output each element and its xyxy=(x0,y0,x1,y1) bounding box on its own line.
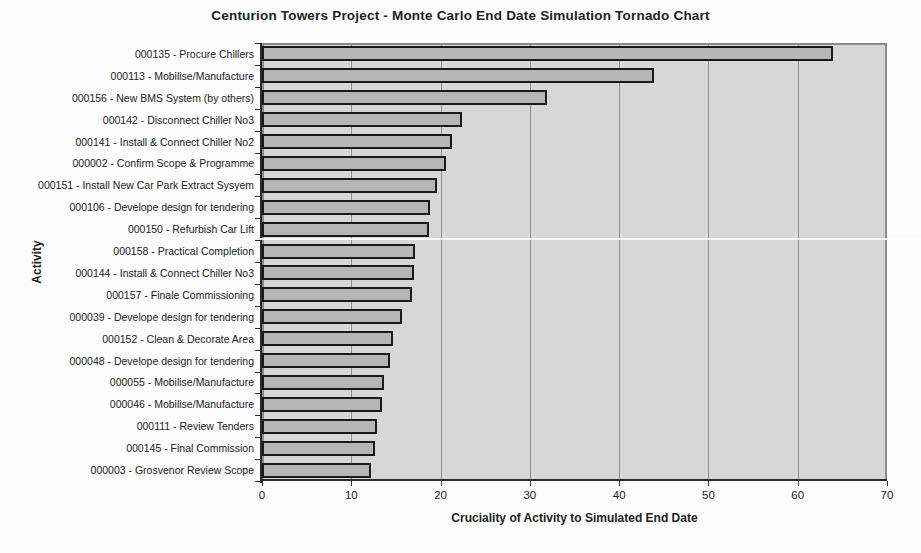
category-label: 000055 - Mobilise/Manufacture xyxy=(0,375,259,389)
x-axis-tick xyxy=(530,481,531,486)
x-axis-tick-label: 20 xyxy=(423,489,459,501)
bar-000156 xyxy=(262,90,547,105)
category-label: 000141 - Install & Connect Chiller No2 xyxy=(0,135,259,149)
bar-000157 xyxy=(262,287,412,302)
category-label: 000039 - Develope design for tendering xyxy=(0,310,259,324)
bar-000048 xyxy=(262,353,390,368)
bar-000106 xyxy=(262,200,430,215)
bar-000150 xyxy=(262,222,429,237)
x-axis-tick xyxy=(262,481,263,486)
x-axis-tick xyxy=(708,481,709,486)
bar-000144 xyxy=(262,265,414,280)
x-axis-tick-label: 40 xyxy=(601,489,637,501)
plot-area xyxy=(262,43,887,481)
x-axis-tick xyxy=(619,481,620,486)
y-axis-title: Activity xyxy=(24,43,50,481)
scan-artifact-line xyxy=(248,238,921,240)
tornado-chart-page: Centurion Towers Project - Monte Carlo E… xyxy=(0,0,921,553)
bar-000039 xyxy=(262,309,402,324)
x-axis-tick-label: 30 xyxy=(512,489,548,501)
chart-title: Centurion Towers Project - Monte Carlo E… xyxy=(0,8,921,23)
bar-000046 xyxy=(262,397,382,412)
category-label: 000048 - Develope design for tendering xyxy=(0,354,259,368)
category-label: 000145 - Final Commission xyxy=(0,441,259,455)
category-label: 000106 - Develope design for tendering xyxy=(0,200,259,214)
gridline-50 xyxy=(708,45,709,479)
category-label: 000150 - Refurbish Car Lift xyxy=(0,222,259,236)
category-label: 000135 - Procure Chillers xyxy=(0,47,259,61)
category-label: 000142 - Disconnect Chiller No3 xyxy=(0,113,259,127)
x-axis-tick-label: 10 xyxy=(333,489,369,501)
category-label: 000144 - Install & Connect Chiller No3 xyxy=(0,266,259,280)
x-axis-tick-label: 0 xyxy=(244,489,280,501)
category-label: 000158 - Practical Completion xyxy=(0,244,259,258)
x-axis-tick-label: 70 xyxy=(869,489,905,501)
x-axis-title: Cruciality of Activity to Simulated End … xyxy=(262,511,887,525)
bar-000113 xyxy=(262,68,654,83)
bar-000135 xyxy=(262,46,833,61)
bar-000141 xyxy=(262,134,452,149)
x-axis-line xyxy=(260,479,887,481)
bar-000003 xyxy=(262,463,371,478)
category-label: 000151 - Install New Car Park Extract Sy… xyxy=(0,178,259,192)
category-label: 000002 - Confirm Scope & Programme xyxy=(0,156,259,170)
x-axis-tick xyxy=(887,481,888,486)
gridline-20 xyxy=(441,45,442,479)
bar-000002 xyxy=(262,156,446,171)
category-label: 000113 - Mobilise/Manufacture xyxy=(0,69,259,83)
bar-000111 xyxy=(262,419,377,434)
bar-000055 xyxy=(262,375,384,390)
x-axis-tick-label: 50 xyxy=(690,489,726,501)
x-axis-tick xyxy=(798,481,799,486)
category-label: 000046 - Mobilise/Manufacture xyxy=(0,397,259,411)
x-axis-tick-label: 60 xyxy=(780,489,816,501)
gridline-40 xyxy=(619,45,620,479)
bar-000151 xyxy=(262,178,437,193)
category-label: 000111 - Review Tenders xyxy=(0,419,259,433)
bar-000158 xyxy=(262,244,415,259)
bar-000152 xyxy=(262,331,393,346)
gridline-10 xyxy=(351,45,352,479)
category-label: 000156 - New BMS System (by others) xyxy=(0,91,259,105)
category-label: 000152 - Clean & Decorate Area xyxy=(0,332,259,346)
bar-000142 xyxy=(262,112,462,127)
x-axis-tick xyxy=(441,481,442,486)
category-label: 000003 - Grosvenor Review Scope xyxy=(0,463,259,477)
x-axis-tick xyxy=(351,481,352,486)
bar-000145 xyxy=(262,441,375,456)
gridline-60 xyxy=(798,45,799,479)
y-axis-line xyxy=(260,43,262,483)
gridline-30 xyxy=(530,45,531,479)
category-label: 000157 - Finale Commissioning xyxy=(0,288,259,302)
